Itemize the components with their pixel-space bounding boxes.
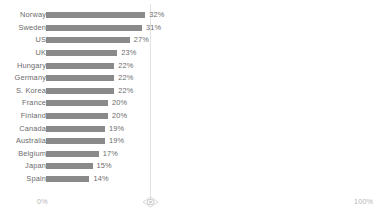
bar-row: Hungary22% [0,59,377,72]
bar-track: 19% [46,126,377,132]
bar-row: Australia19% [0,135,377,148]
value-label: 32% [149,12,164,19]
bar-track: 27% [46,37,377,43]
value-label: 14% [93,175,108,182]
bar-track: 32% [46,12,377,18]
bar-fill[interactable] [46,100,108,106]
value-label: 23% [121,49,136,56]
bar-fill[interactable] [46,151,99,157]
value-label: 22% [118,87,133,94]
category-label: Sweden [0,24,46,31]
axis-tick-min: 0% [37,198,48,205]
bar-fill[interactable] [46,88,114,94]
bar-fill[interactable] [46,75,114,81]
value-label: 20% [112,112,127,119]
axis-tick-max: 100% [354,198,373,205]
category-label: Australia [0,138,46,145]
category-label: Spain [0,175,46,182]
value-label: 17% [103,150,118,157]
bar-chart: Norway32%Sweden31%US27%UK23%Hungary22%Ge… [0,0,377,216]
value-label: 19% [109,138,124,145]
bar-row: Finland20% [0,110,377,123]
category-label: Canada [0,125,46,132]
value-label: 19% [109,125,124,132]
x-axis: 0% 100% [0,196,377,216]
bar-row: Germany22% [0,72,377,85]
bar-row: Belgium17% [0,148,377,161]
category-label: UK [0,49,46,56]
bar-track: 15% [46,163,377,169]
category-label: Germany [0,75,46,82]
bar-fill[interactable] [46,113,108,119]
bar-track: 22% [46,88,377,94]
value-label: 20% [112,100,127,107]
bar-track: 22% [46,63,377,69]
value-label: 22% [118,75,133,82]
bar-fill[interactable] [46,50,117,56]
bar-fill[interactable] [46,138,105,144]
bar-row: Sweden31% [0,22,377,35]
category-label: S. Korea [0,87,46,94]
value-label: 22% [118,62,133,69]
bar-fill[interactable] [46,25,142,31]
bar-track: 20% [46,113,377,119]
category-label: US [0,37,46,44]
bar-row: France20% [0,97,377,110]
bar-track: 31% [46,25,377,31]
bar-row: Japan15% [0,160,377,173]
value-label: 31% [146,24,161,31]
bar-track: 23% [46,50,377,56]
bar-fill[interactable] [46,12,145,18]
bar-fill[interactable] [46,163,93,169]
category-label: Belgium [0,150,46,157]
value-label: 27% [134,37,149,44]
category-label: Japan [0,163,46,170]
bar-track: 20% [46,100,377,106]
bar-fill[interactable] [46,63,114,69]
category-label: France [0,100,46,107]
bar-track: 17% [46,151,377,157]
bar-row: Norway32% [0,9,377,22]
bar-row: UK23% [0,47,377,60]
bar-row: Spain14% [0,173,377,186]
bar-track: 19% [46,138,377,144]
bar-row: Canada19% [0,122,377,135]
bar-track: 14% [46,176,377,182]
value-label: 15% [97,163,112,170]
bar-fill[interactable] [46,37,130,43]
plot-area: Norway32%Sweden31%US27%UK23%Hungary22%Ge… [0,9,377,191]
bar-fill[interactable] [46,176,89,182]
category-label: Hungary [0,62,46,69]
bar-row: US27% [0,34,377,47]
bar-row: S. Korea22% [0,85,377,98]
category-label: Norway [0,12,46,19]
bar-track: 22% [46,75,377,81]
category-label: Finland [0,112,46,119]
bar-fill[interactable] [46,126,105,132]
